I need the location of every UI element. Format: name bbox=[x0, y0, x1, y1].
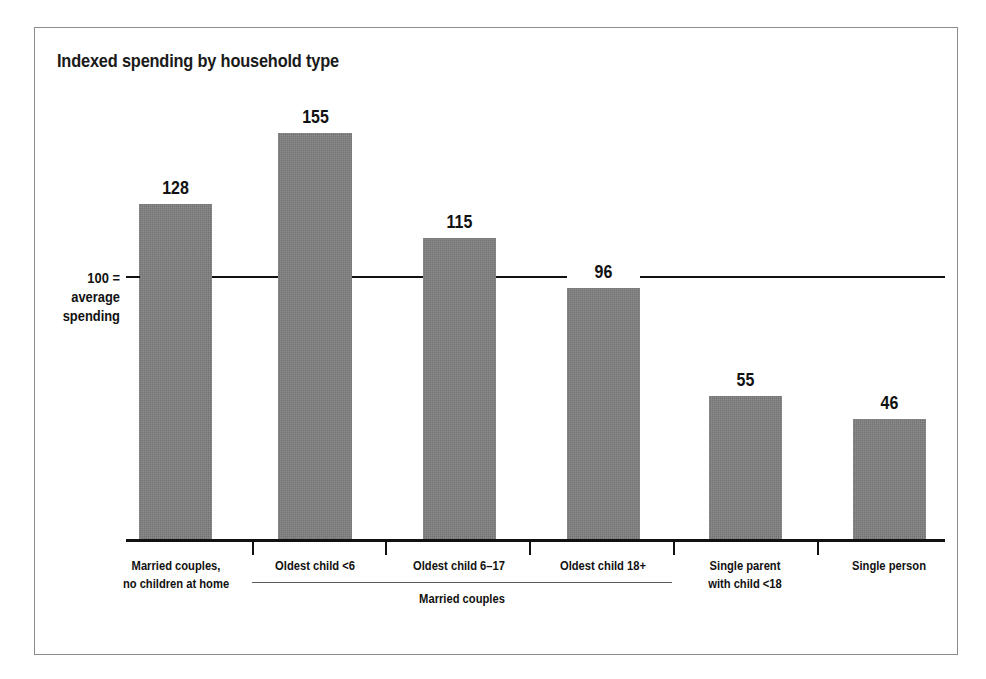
category-label-oldest-child-18-plus: Oldest child 18+ bbox=[543, 557, 663, 575]
axis-tick-4 bbox=[673, 542, 675, 555]
reference-line-seg-2 bbox=[352, 276, 423, 278]
bar-single-parent-child-under-18 bbox=[709, 396, 782, 540]
x-axis-line bbox=[126, 539, 945, 542]
axis-tick-1 bbox=[252, 542, 254, 555]
category-label-1-line1: Married couples, bbox=[116, 557, 236, 575]
group-rule-married-couples bbox=[252, 582, 672, 583]
category-label-5-line2: with child <18 bbox=[685, 575, 805, 593]
bar-oldest-child-6-17 bbox=[423, 238, 496, 540]
bar-oldest-child-18-plus bbox=[567, 288, 640, 540]
category-label-1-line2: no children at home bbox=[116, 575, 236, 593]
category-label-2-line1: Oldest child <6 bbox=[255, 557, 375, 575]
bar-value-2: 155 bbox=[273, 106, 358, 128]
category-label-single-person: Single person bbox=[829, 557, 949, 575]
axis-tick-5 bbox=[817, 542, 819, 555]
axis-tick-2 bbox=[385, 542, 387, 555]
bar-value-3: 115 bbox=[417, 211, 502, 233]
category-label-4-line1: Oldest child 18+ bbox=[543, 557, 663, 575]
category-label-married-no-children: Married couples, no children at home bbox=[116, 557, 236, 593]
bar-married-no-children bbox=[139, 204, 212, 540]
reference-line-seg-4 bbox=[640, 276, 945, 278]
bar-value-1: 128 bbox=[133, 177, 218, 199]
category-label-3-line1: Oldest child 6–17 bbox=[399, 557, 519, 575]
reference-line-label-line1: 100 = bbox=[51, 268, 120, 287]
group-label-married-couples: Married couples bbox=[367, 591, 556, 606]
category-label-6-line1: Single person bbox=[829, 557, 949, 575]
bar-single-person bbox=[853, 419, 926, 540]
axis-tick-3 bbox=[529, 542, 531, 555]
bar-value-6: 46 bbox=[847, 392, 932, 414]
reference-line-seg-3 bbox=[496, 276, 567, 278]
category-label-oldest-child-6-17: Oldest child 6–17 bbox=[399, 557, 519, 575]
bar-value-4: 96 bbox=[561, 261, 646, 283]
reference-line-label: 100 = average spending bbox=[51, 268, 120, 325]
bar-oldest-child-under-6 bbox=[278, 133, 352, 540]
category-label-oldest-child-under-6: Oldest child <6 bbox=[255, 557, 375, 575]
category-label-5-line1: Single parent bbox=[685, 557, 805, 575]
plot-area: 128 155 115 96 55 46 100 = average spend… bbox=[0, 0, 986, 679]
bar-value-5: 55 bbox=[703, 369, 788, 391]
figure-container: Indexed spending by household type 128 1… bbox=[0, 0, 986, 679]
reference-line-label-line2: average bbox=[51, 287, 120, 306]
category-label-single-parent: Single parent with child <18 bbox=[685, 557, 805, 593]
reference-line-seg-1 bbox=[212, 276, 278, 278]
reference-line-label-line3: spending bbox=[51, 306, 120, 325]
reference-line-tick bbox=[126, 276, 140, 278]
